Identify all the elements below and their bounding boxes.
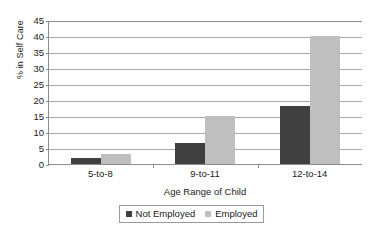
y-axis-tick-label: 10 [18, 128, 44, 138]
y-axis-tick-mark [46, 69, 49, 70]
y-axis-tick-mark [46, 37, 49, 38]
chart-legend: Not EmployedEmployed [119, 205, 265, 223]
x-axis-category-label: 9-to-11 [153, 168, 258, 180]
y-axis-tick-label: 20 [18, 96, 44, 106]
x-axis-category-label: 5-to-8 [48, 168, 153, 180]
legend-swatch-icon [126, 211, 132, 217]
bar-group [153, 21, 257, 164]
x-axis-title: Age Range of Child [48, 186, 362, 198]
bar-chart: % in Self Care 454035302520151050 5-to-8… [0, 0, 383, 234]
y-axis-tick-label: 0 [18, 160, 44, 170]
legend-item: Employed [205, 208, 257, 219]
y-axis-tick-mark [46, 165, 49, 166]
legend-swatch-icon [205, 211, 211, 217]
y-axis-tick-mark [46, 21, 49, 22]
legend-item: Not Employed [126, 208, 196, 219]
bar [175, 143, 205, 164]
bar [280, 106, 310, 164]
y-axis-tick-mark [46, 53, 49, 54]
y-axis-tick-mark [46, 101, 49, 102]
y-axis-tick-mark [46, 133, 49, 134]
bar [101, 154, 131, 164]
bar-group [258, 21, 362, 164]
y-axis-tick-labels: 454035302520151050 [18, 16, 44, 166]
y-axis-tick-mark [46, 149, 49, 150]
bar [310, 36, 340, 164]
plot-area [48, 21, 362, 165]
y-axis-tick-label: 30 [18, 64, 44, 74]
y-axis-tick-label: 45 [18, 16, 44, 26]
bar [205, 116, 235, 164]
y-axis-tick-label: 25 [18, 80, 44, 90]
bar-group [49, 21, 153, 164]
y-axis-tick-label: 35 [18, 48, 44, 58]
legend-label: Employed [215, 208, 257, 219]
x-axis-category-labels: 5-to-89-to-1112-to-14 [48, 168, 362, 180]
y-axis-tick-label: 40 [18, 32, 44, 42]
legend-label: Not Employed [136, 208, 196, 219]
y-axis-tick-mark [46, 117, 49, 118]
y-axis-tick-label: 15 [18, 112, 44, 122]
bars-layer [49, 21, 362, 164]
y-axis-tick-label: 5 [18, 144, 44, 154]
y-axis-tick-mark [46, 85, 49, 86]
x-axis-category-label: 12-to-14 [257, 168, 362, 180]
bar [71, 158, 101, 164]
